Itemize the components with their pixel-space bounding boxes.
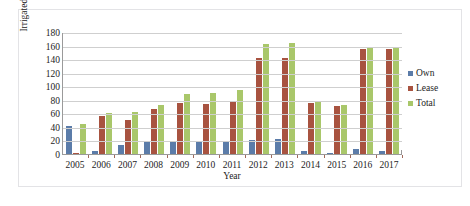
bar-total[interactable]: [132, 112, 138, 154]
y-axis-tick-label: 120: [34, 69, 60, 79]
y-axis-tick-label: 180: [34, 28, 60, 38]
bar-own[interactable]: [196, 141, 202, 154]
bar-group: [141, 33, 167, 154]
x-axis-tick-label: 2017: [376, 158, 402, 172]
bar-own[interactable]: [301, 151, 307, 154]
bar-lease[interactable]: [203, 104, 209, 154]
gridline: [63, 101, 402, 102]
bar-total[interactable]: [341, 105, 347, 154]
legend-label-lease: Lease: [416, 83, 438, 94]
gridline: [63, 141, 402, 142]
legend-item-own[interactable]: Own: [408, 66, 462, 81]
x-axis-tick-label: 2006: [88, 158, 114, 172]
x-axis-tick-labels: 2005200620072008200920102011201220132014…: [62, 158, 402, 172]
x-axis-tick-label: 2012: [245, 158, 271, 172]
legend-swatch-total-icon: [408, 101, 413, 106]
bar-group: [246, 33, 272, 154]
x-axis-tick-mark: [402, 155, 403, 158]
bar-own[interactable]: [144, 142, 150, 154]
bar-group: [89, 33, 115, 154]
x-axis-tick-label: 2005: [62, 158, 88, 172]
gridline: [63, 87, 402, 88]
x-axis-end-cap: [401, 150, 402, 154]
bar-total[interactable]: [158, 105, 164, 154]
y-axis-tick-label: 100: [34, 82, 60, 92]
y-axis-tick-label: 140: [34, 55, 60, 65]
bar-lease[interactable]: [73, 153, 79, 154]
bar-group: [350, 33, 376, 154]
y-axis-tick-label: 160: [34, 42, 60, 52]
chart-legend: Own Lease Total: [408, 66, 462, 111]
bar-lease[interactable]: [99, 116, 105, 154]
bar-group: [115, 33, 141, 154]
gridline: [63, 74, 402, 75]
x-axis-tick-label: 2010: [193, 158, 219, 172]
y-axis-title: Irrigated land (ha): [17, 0, 31, 52]
x-axis-title: Year: [62, 171, 402, 181]
gridline: [63, 128, 402, 129]
bar-lease[interactable]: [125, 120, 131, 154]
bar-own[interactable]: [223, 142, 229, 154]
bar-group: [272, 33, 298, 154]
bar-own[interactable]: [170, 142, 176, 154]
legend-swatch-lease-icon: [408, 86, 413, 91]
x-axis-tick-label: 2013: [271, 158, 297, 172]
legend-item-total[interactable]: Total: [408, 96, 462, 111]
y-axis-tick-label: 0: [34, 150, 60, 160]
x-axis-tick-label: 2011: [219, 158, 245, 172]
gridline: [63, 33, 402, 34]
bar-lease[interactable]: [282, 58, 288, 154]
gridline: [63, 47, 402, 48]
x-axis-tick-label: 2008: [140, 158, 166, 172]
y-axis-tick-label: 60: [34, 109, 60, 119]
bar-group: [193, 33, 219, 154]
bar-lease[interactable]: [334, 106, 340, 154]
y-axis-tick-label: 80: [34, 96, 60, 106]
y-axis-tick-label: 40: [34, 123, 60, 133]
legend-swatch-own-icon: [408, 71, 413, 76]
bar-lease[interactable]: [256, 58, 262, 154]
bar-own[interactable]: [379, 151, 385, 154]
bar-total[interactable]: [210, 93, 216, 154]
x-axis-tick-label: 2016: [350, 158, 376, 172]
bar-own[interactable]: [249, 140, 255, 154]
x-axis-tick-label: 2007: [114, 158, 140, 172]
bar-own[interactable]: [353, 149, 359, 154]
bar-group: [167, 33, 193, 154]
y-axis-tick-label: 20: [34, 136, 60, 146]
bar-own[interactable]: [327, 153, 333, 154]
bar-own[interactable]: [118, 145, 124, 154]
x-axis-tick-label: 2009: [167, 158, 193, 172]
y-axis-tick-labels: 180160140120100806040200: [34, 27, 60, 155]
bar-own[interactable]: [66, 126, 72, 154]
x-axis-tick-label: 2015: [324, 158, 350, 172]
bar-group: [63, 33, 89, 154]
legend-item-lease[interactable]: Lease: [408, 81, 462, 96]
bar-total[interactable]: [106, 113, 112, 154]
bar-group: [219, 33, 245, 154]
plot-area: [62, 33, 402, 155]
bar-lease[interactable]: [151, 109, 157, 154]
bar-group: [376, 33, 402, 154]
bar-group: [298, 33, 324, 154]
bar-total[interactable]: [184, 94, 190, 154]
chart-container: Irrigated land (ha) 18016014012010080604…: [0, 0, 470, 206]
bar-own[interactable]: [92, 151, 98, 154]
bar-group: [324, 33, 350, 154]
legend-label-total: Total: [416, 98, 435, 109]
legend-label-own: Own: [416, 68, 434, 79]
gridline: [63, 60, 402, 61]
bar-groups: [63, 33, 402, 154]
gridline: [63, 114, 402, 115]
x-axis-tick-label: 2014: [297, 158, 323, 172]
